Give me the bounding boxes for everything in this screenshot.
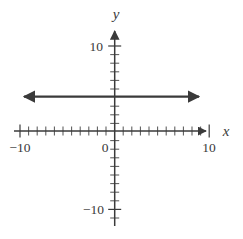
x-tick-label-pos-ten: 10 xyxy=(202,140,216,155)
graph-canvas: y x −10 0 10 10 −10 xyxy=(0,0,243,239)
x-axis-label: x xyxy=(222,123,230,139)
y-tick-label-neg-ten: −10 xyxy=(83,202,104,217)
y-tick-label-pos-ten: 10 xyxy=(90,39,104,54)
y-axis-label: y xyxy=(111,6,120,22)
x-tick-label-neg-ten: −10 xyxy=(9,140,30,155)
x-tick-label-origin: 0 xyxy=(102,140,109,155)
coordinate-plane-figure: y x −10 0 10 10 −10 xyxy=(0,0,243,239)
